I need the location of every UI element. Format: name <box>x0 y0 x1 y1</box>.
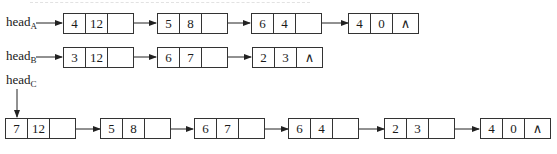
exp-cell: 7 <box>180 48 202 67</box>
coef-cell: 2 <box>385 119 407 138</box>
null-pointer-icon: ∧ <box>525 119 550 138</box>
exp-cell: 3 <box>275 48 297 67</box>
coef-cell: 6 <box>195 119 217 138</box>
next-pointer-cell <box>50 119 75 138</box>
coef-cell: 5 <box>101 119 123 138</box>
coef-cell: 2 <box>253 48 275 67</box>
exp-cell: 12 <box>86 14 108 33</box>
coef-cell: 4 <box>349 14 371 33</box>
list-b-node: 6 7 <box>157 47 228 68</box>
coef-cell: 4 <box>64 14 86 33</box>
exp-cell: 12 <box>86 48 108 67</box>
next-pointer-cell <box>429 119 454 138</box>
next-pointer-cell <box>145 119 170 138</box>
next-pointer-cell <box>202 14 227 33</box>
coef-cell: 3 <box>64 48 86 67</box>
next-pointer-cell <box>108 48 133 67</box>
coef-cell: 5 <box>158 14 180 33</box>
list-a-node: 5 8 <box>157 13 228 34</box>
list-b-node: 2 3 ∧ <box>252 47 323 68</box>
head-c-label: headC <box>6 73 37 91</box>
list-a-node: 6 4 <box>251 13 322 34</box>
coef-cell: 6 <box>158 48 180 67</box>
exp-cell: 4 <box>274 14 296 33</box>
null-pointer-icon: ∧ <box>393 14 418 33</box>
list-b-node: 3 12 <box>63 47 134 68</box>
next-pointer-cell <box>108 14 133 33</box>
coef-cell: 4 <box>481 119 503 138</box>
exp-cell: 3 <box>407 119 429 138</box>
exp-cell: 4 <box>311 119 333 138</box>
exp-cell: 12 <box>28 119 50 138</box>
list-c-node: 5 8 <box>100 118 171 139</box>
exp-cell: 0 <box>371 14 393 33</box>
exp-cell: 7 <box>217 119 239 138</box>
next-pointer-cell <box>202 48 227 67</box>
list-a-node: 4 12 <box>63 13 134 34</box>
coef-cell: 6 <box>252 14 274 33</box>
list-a-node: 4 0 ∧ <box>348 13 419 34</box>
next-pointer-cell <box>239 119 264 138</box>
head-b-label: headB <box>6 49 37 67</box>
list-c-node: 2 3 <box>384 118 455 139</box>
list-c-node: 4 0 ∧ <box>480 118 551 139</box>
null-pointer-icon: ∧ <box>297 48 322 67</box>
next-pointer-cell <box>333 119 358 138</box>
list-c-node: 6 4 <box>288 118 359 139</box>
list-c-node: 7 12 <box>5 118 76 139</box>
list-c-node: 6 7 <box>194 118 265 139</box>
exp-cell: 8 <box>123 119 145 138</box>
coef-cell: 6 <box>289 119 311 138</box>
next-pointer-cell <box>296 14 321 33</box>
exp-cell: 8 <box>180 14 202 33</box>
exp-cell: 0 <box>503 119 525 138</box>
coef-cell: 7 <box>6 119 28 138</box>
head-a-label: headA <box>6 15 37 33</box>
